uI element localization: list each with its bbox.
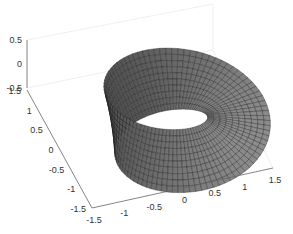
- x-tick-label: 0: [182, 195, 187, 205]
- z-tick-label: 0: [17, 59, 22, 69]
- y-tick-label: 1: [27, 106, 32, 116]
- y-tick-label: 0: [48, 145, 53, 155]
- y-tick-label: -1.5: [70, 204, 86, 214]
- z-tick-labels: -0.500.5: [6, 35, 22, 93]
- x-tick-label: 0.5: [208, 188, 221, 198]
- y-tick-label: -1: [67, 184, 75, 194]
- y-tick-label: 0.5: [30, 125, 43, 135]
- y-tick-label: -0.5: [49, 165, 65, 175]
- x-tick-label: 1: [242, 182, 247, 192]
- y-tick-label: 1.5: [8, 86, 21, 96]
- x-tick-label: -0.5: [147, 202, 163, 212]
- x-tick-label: 1.5: [269, 175, 282, 185]
- surface-plot: -0.500.5 -1.5-1-0.500.511.5 -1.5-1-0.500…: [0, 0, 293, 234]
- x-tick-label: -1.5: [86, 215, 102, 225]
- x-tick-label: -1: [120, 208, 128, 218]
- y-tick-labels: -1.5-1-0.500.511.5: [8, 86, 86, 214]
- y-axis: [27, 90, 92, 208]
- z-tick-label: 0.5: [9, 35, 22, 45]
- mobius-surface: [104, 48, 271, 193]
